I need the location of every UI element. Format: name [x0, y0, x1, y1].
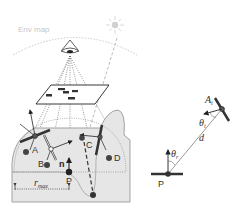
label-theta-i: θi [199, 117, 206, 129]
label-a: A [32, 145, 38, 155]
terrain [12, 110, 130, 202]
label-p: P [66, 176, 72, 186]
valley-point [90, 192, 96, 198]
label-d: D [114, 153, 121, 163]
label-ai: Ai [204, 94, 213, 106]
eye-icon [61, 40, 79, 53]
label-theta-r: θr [171, 148, 179, 160]
label-b: B [38, 159, 44, 169]
label-d: d [199, 132, 205, 143]
env-map-label: Env map [18, 25, 50, 34]
diagram-svg: Env map [0, 0, 244, 209]
normal-label: n [59, 159, 65, 169]
diagram-canvas: Env map [0, 0, 244, 209]
right-panel [151, 98, 229, 177]
sun-icon [106, 16, 124, 34]
label-c: C [86, 140, 93, 150]
label-p-right: P [158, 179, 164, 189]
